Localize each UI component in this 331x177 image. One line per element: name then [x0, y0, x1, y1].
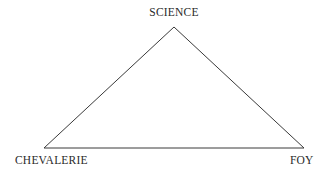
vertex-label-science: SCIENCE	[149, 7, 198, 19]
triangle-outline	[44, 27, 304, 148]
vertex-label-chevalerie: CHEVALERIE	[15, 155, 88, 167]
triangle-diagram: SCIENCE CHEVALERIE FOY	[0, 0, 331, 177]
vertex-label-foy: FOY	[290, 155, 314, 167]
triangle-shape	[0, 0, 331, 177]
